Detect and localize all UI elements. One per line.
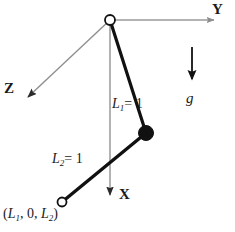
link1-value: = 1 [124, 96, 142, 111]
link-l1 [110, 20, 146, 133]
joint-end-point [58, 198, 67, 207]
diagram-canvas [0, 0, 235, 232]
axis-label-x: X [119, 187, 130, 202]
link2-label: L2= 1 [52, 152, 83, 168]
joint-pivot [105, 15, 115, 25]
link1-label: L1= 1 [112, 97, 143, 113]
coord-middle: , 0, [20, 206, 41, 221]
link2-value: = 1 [64, 151, 82, 166]
coord-close-paren: ) [53, 206, 58, 221]
gravity-label: g [186, 91, 194, 106]
link2-variable: L [52, 151, 60, 166]
link1-variable: L [112, 96, 120, 111]
coordinate-label: (L1, 0, L2) [3, 207, 58, 223]
axis-label-z: Z [4, 81, 14, 96]
axis-label-y: Y [212, 2, 223, 17]
joint-mass-bob [139, 126, 154, 141]
coord-variable-2: L [41, 206, 49, 221]
pendulum-diagram: Y Z X g L1= 1 L2= 1 (L1, 0, L2) [0, 0, 235, 232]
axis-line-z [28, 20, 110, 97]
